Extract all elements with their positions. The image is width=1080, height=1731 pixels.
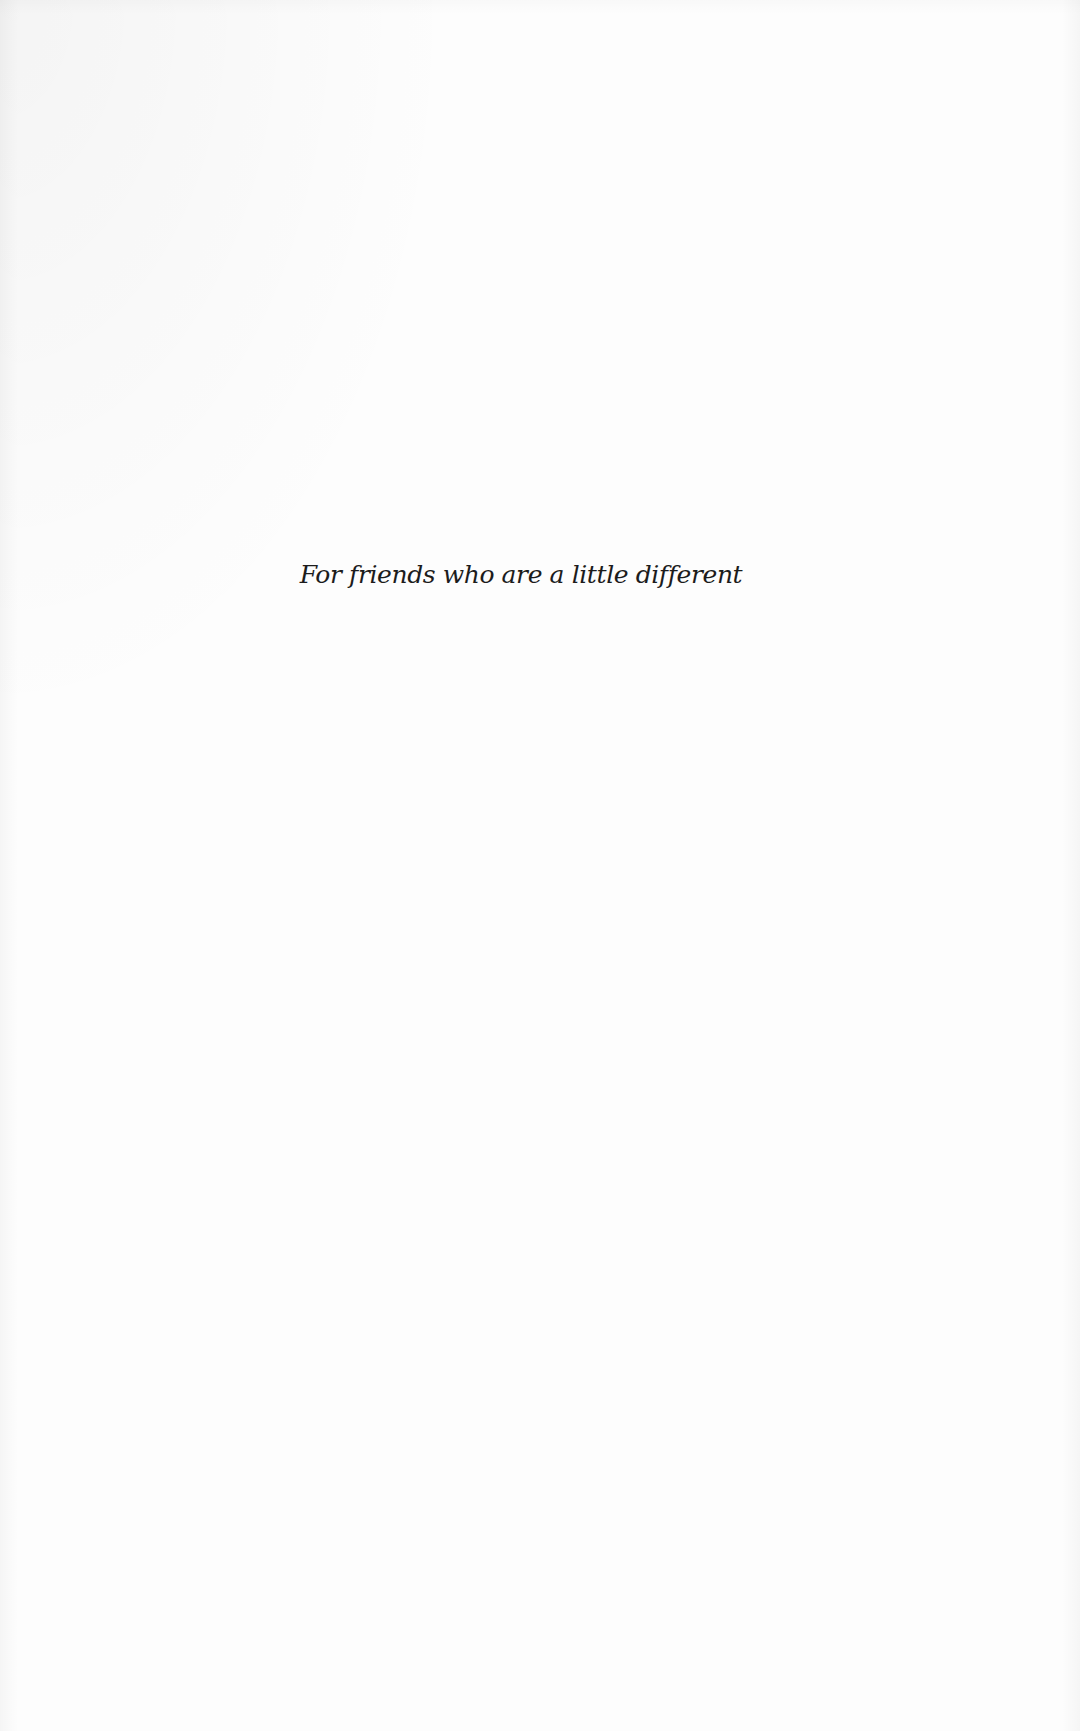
dedication-text: For friends who are a little different <box>0 557 1042 593</box>
book-page: For friends who are a little different <box>0 0 1080 1731</box>
